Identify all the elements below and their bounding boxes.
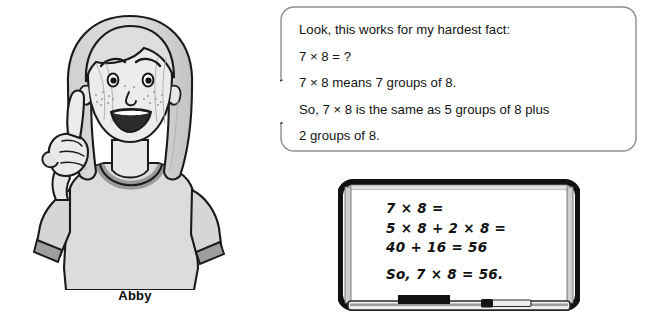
whiteboard-line-2: 5 × 8 + 2 × 8 = [386, 219, 566, 239]
bubble-line-4: So, 7 × 8 is the same as 5 groups of 8 p… [299, 97, 629, 124]
speech-bubble: Look, this works for my hardest fact: 7 … [280, 6, 637, 153]
whiteboard: 7 × 8 = 5 × 8 + 2 × 8 = 40 + 16 = 56 So,… [338, 179, 580, 319]
whiteboard-line-1: 7 × 8 = [386, 199, 566, 219]
whiteboard-text: 7 × 8 = 5 × 8 + 2 × 8 = 40 + 16 = 56 So,… [386, 199, 566, 284]
character-name-label: Abby [60, 288, 210, 303]
bubble-line-3: 7 × 8 means 7 groups of 8. [299, 70, 629, 97]
speech-bubble-text: Look, this works for my hardest fact: 7 … [299, 17, 629, 150]
marker-cap [481, 299, 493, 308]
bubble-line-2: 7 × 8 = ? [299, 44, 629, 71]
whiteboard-line-3: 40 + 16 = 56 [386, 238, 566, 258]
character-illustration-abby [8, 0, 248, 290]
illustration-canvas: Abby Look, this works for my hardest fac… [0, 0, 659, 328]
eraser [398, 295, 450, 304]
bubble-line-1: Look, this works for my hardest fact: [299, 17, 629, 44]
bubble-line-5: 2 groups of 8. [299, 123, 629, 150]
whiteboard-line-4: So, 7 × 8 = 56. [386, 265, 566, 285]
